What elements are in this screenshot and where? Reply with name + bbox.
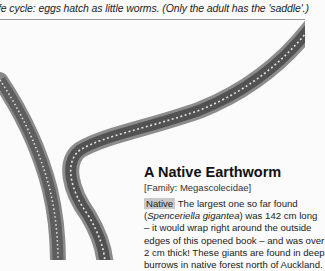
body-line-4: edges of this opened book – and was over — [144, 235, 309, 247]
caption-title: A Native Earthworm — [144, 164, 309, 181]
body-line-3: – it would wrap right around the outside — [144, 222, 309, 234]
worm-left — [0, 80, 58, 260]
body-line-5: 2 cm thick! These giants are found in de… — [144, 247, 309, 259]
body-text: The largest one so far found — [175, 198, 298, 209]
native-badge: Native — [144, 198, 175, 209]
body-line-2: (Spenceriella gigantea) was 142 cm long — [144, 210, 309, 222]
caption-body: Native The largest one so far found (Spe… — [144, 198, 309, 271]
body-line-1: Native The largest one so far found — [144, 198, 309, 210]
caption-family: [Family: Megascolecidae] — [144, 182, 309, 194]
body-line-6: burrows in native forest north of Auckla… — [144, 259, 309, 271]
caption-block: A Native Earthworm [Family: Megascolecid… — [144, 164, 309, 271]
